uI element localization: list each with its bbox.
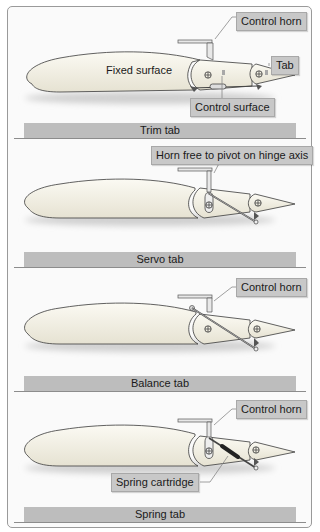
divider (14, 138, 306, 139)
callout-text: Horn free to pivot on hinge axis (156, 149, 308, 161)
caption-spring-tab: Spring tab (24, 507, 296, 522)
callout-spring-cartridge: Spring cartridge (111, 473, 199, 492)
callout-control-surface: Control surface (190, 98, 275, 117)
callout-control-horn: Control horn (236, 12, 307, 31)
callout-control-horn: Control horn (236, 278, 307, 297)
panel-balance-tab: Control horn Balance tab (0, 268, 320, 390)
panel-trim-tab: Fixed surface Control horn Tab Control s… (0, 0, 320, 135)
fixed-surface-shape (25, 179, 198, 218)
callout-text: Control horn (241, 15, 302, 27)
callout-control-horn: Control horn (236, 400, 307, 419)
callout-text: Control surface (195, 101, 270, 113)
control-surface-shape (193, 436, 250, 466)
divider (14, 522, 306, 523)
callout-text: Control horn (241, 403, 302, 415)
caption-servo-tab: Servo tab (24, 252, 296, 267)
tab-shape (248, 442, 295, 460)
caption-trim-tab: Trim tab (24, 123, 296, 138)
callout-tab: Tab (271, 56, 299, 75)
callout-text: Spring cartridge (116, 476, 194, 488)
panel-servo-tab: Horn free to pivot on hinge axis Servo t… (0, 140, 320, 265)
fixed-surface-shape (25, 425, 198, 466)
label-fixed-surface: Fixed surface (106, 64, 172, 76)
panel-spring-tab: Control horn Spring cartridge Spring tab (0, 392, 320, 532)
callout-text: Tab (276, 59, 294, 71)
fixed-surface-shape (25, 303, 198, 344)
callout-horn-pivot: Horn free to pivot on hinge axis (151, 146, 313, 165)
callout-text: Control horn (241, 281, 302, 293)
caption-balance-tab: Balance tab (24, 376, 296, 391)
